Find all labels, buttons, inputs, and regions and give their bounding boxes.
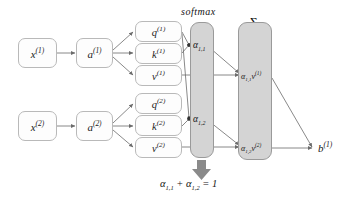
node-k1: k(1) xyxy=(135,43,182,64)
node-x1: x(1) xyxy=(18,38,57,68)
label-alpha-1-1: α1,1 xyxy=(193,40,205,52)
softmax-constraint-equation: α1,1 + α1,2 = 1 xyxy=(160,178,217,191)
node-a2-label: a(2) xyxy=(87,120,101,133)
sum-column xyxy=(238,22,272,160)
node-q1: q(1) xyxy=(135,21,182,42)
label-alpha12-v2: α1,2v(2) xyxy=(241,142,261,154)
softmax-caption: softmax xyxy=(181,6,216,17)
node-x2: x(2) xyxy=(18,111,57,141)
label-alpha-1-2: α1,2 xyxy=(193,114,205,126)
node-k2-label: k(2) xyxy=(152,120,165,132)
node-a2: a(2) xyxy=(76,111,113,141)
node-x1-label: x(1) xyxy=(31,47,45,60)
arrow-alpha12-sum2 xyxy=(210,122,239,145)
softmax-down-arrow xyxy=(192,160,211,180)
node-x2-label: x(2) xyxy=(31,120,45,133)
node-q1-label: q(1) xyxy=(152,26,166,38)
node-k1-label: k(1) xyxy=(152,48,165,60)
attention-diagram: x(1) x(2) a(1) a(2) q(1) k(1) v(1) q(2) … xyxy=(0,0,361,198)
arrow-a2-q2 xyxy=(113,104,133,123)
arrow-a1-q1 xyxy=(113,32,133,50)
node-v1-label: v(1) xyxy=(152,70,165,82)
arrow-sum1-b1 xyxy=(272,78,312,147)
arrow-k2-alpha12 xyxy=(182,119,189,126)
label-alpha11-v1: α1,1v(1) xyxy=(241,70,261,82)
node-v2: v(2) xyxy=(135,137,182,158)
node-a1: a(1) xyxy=(76,38,113,68)
node-a1-label: a(1) xyxy=(87,47,101,60)
node-q2: q(2) xyxy=(135,93,182,114)
arrow-a1-v1 xyxy=(113,57,133,75)
arrow-alpha11-sum1 xyxy=(210,48,239,73)
node-k2: k(2) xyxy=(135,115,182,136)
node-v2-label: v(2) xyxy=(152,142,165,154)
label-output-b1: b(1) xyxy=(318,140,332,154)
arrow-a2-v2 xyxy=(113,130,133,147)
node-v1: v(1) xyxy=(135,65,182,86)
node-q2-label: q(2) xyxy=(152,98,166,110)
